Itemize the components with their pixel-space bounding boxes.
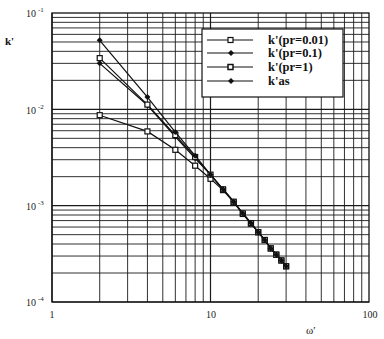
y-tick-labels: 10-1 10-2 10-3 10-4: [26, 6, 44, 308]
square-marker-icon: [173, 147, 178, 152]
y-tick-1e-4: 10-4: [26, 295, 44, 308]
series-0: [97, 113, 288, 269]
square-marker-icon: [145, 129, 150, 134]
svg-text:k'(pr=0.01): k'(pr=0.01): [268, 33, 328, 47]
chart-figure: 10-1 10-2 10-3 10-4 1 10 100 k' ω′ k'(pr…: [0, 0, 384, 339]
square-marker-icon: [97, 113, 102, 118]
square-marker-icon: [228, 65, 233, 70]
svg-text:k'(pr=1): k'(pr=1): [268, 60, 313, 74]
square-marker-icon: [193, 163, 198, 168]
square-marker-icon: [228, 38, 233, 43]
svg-text:k'as: k'as: [268, 74, 290, 88]
x-tick-10: 10: [206, 309, 216, 320]
y-axis-label: k': [5, 35, 14, 47]
y-tick-1e-2: 10-2: [26, 103, 44, 116]
x-axis-label: ω′: [306, 324, 316, 336]
legend: k'(pr=0.01) k'(pr=0.1) k'(pr=1) k'as: [202, 29, 343, 97]
square-marker-icon: [145, 102, 150, 107]
y-tick-1e-1: 10-1: [26, 6, 44, 19]
svg-text:k'(pr=0.1): k'(pr=0.1): [268, 46, 322, 60]
x-tick-labels: 1 10 100: [50, 309, 378, 320]
y-tick-1e-3: 10-3: [26, 199, 44, 212]
x-tick-100: 100: [363, 309, 378, 320]
square-marker-icon: [97, 56, 102, 61]
x-tick-1: 1: [50, 309, 55, 320]
